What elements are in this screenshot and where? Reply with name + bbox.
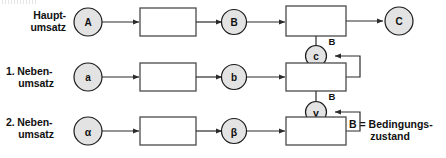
process-box-neben1-2	[286, 63, 346, 91]
diagram-canvas: A B C B c a b B γ	[0, 0, 446, 158]
node-label-beta: β	[231, 126, 238, 138]
node-label-alpha: α	[85, 126, 92, 138]
node-label-a: a	[85, 72, 91, 83]
condition-node-label-c: c	[313, 51, 319, 62]
node-label-b: b	[231, 72, 237, 83]
node-label-B: B	[230, 17, 237, 28]
process-box-haupt-2	[286, 6, 346, 36]
process-box-neben1-1	[140, 63, 196, 91]
process-box-haupt-1	[140, 8, 196, 36]
node-label-C: C	[395, 16, 402, 27]
condition-label-haupt: B	[329, 36, 336, 47]
condition-label-neben1: B	[329, 91, 336, 102]
process-box-neben2-2	[286, 117, 346, 145]
node-label-A: A	[84, 17, 91, 28]
process-flow-diagram: Haupt- umsatz 1. Neben- umsatz 2. Neben-…	[0, 0, 446, 158]
process-box-neben2-1	[140, 117, 196, 145]
